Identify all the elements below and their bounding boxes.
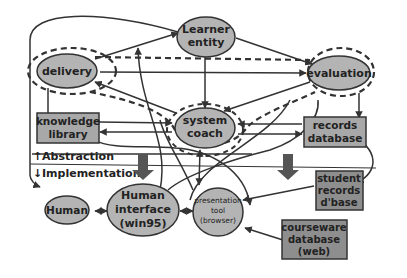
presentation-tool-label-3: (browser) (200, 216, 236, 225)
node-records-database[interactable]: records database (304, 117, 366, 147)
node-student-records[interactable]: student records d'base (316, 171, 363, 210)
node-human-interface[interactable]: Human interface (win95) (107, 184, 179, 236)
human-interface-label-1: Human (121, 189, 165, 202)
implementation-label: Implementation (42, 167, 141, 180)
human-label: Human (46, 204, 88, 216)
student-records-label-3: d'base (321, 197, 358, 208)
evaluation-label: evaluation (306, 67, 372, 80)
node-delivery[interactable]: delivery (37, 54, 97, 88)
learner-entity-label-1: Learner (182, 23, 231, 36)
node-courseware-database[interactable]: courseware database (web) (281, 220, 347, 259)
delivery-label: delivery (42, 65, 92, 78)
courseware-database-label-3: (web) (298, 246, 330, 257)
student-records-label-1: student (317, 173, 361, 184)
system-coach-label-2: coach (187, 127, 223, 140)
knowledge-library-label-2: library (48, 128, 87, 140)
node-knowledge-library[interactable]: knowledge library (36, 113, 100, 143)
human-interface-label-2: interface (115, 203, 171, 216)
learner-entity-label-2: entity (188, 36, 225, 49)
courseware-database-label-2: database (288, 234, 340, 245)
architecture-diagram: Learner entity delivery evaluation syste… (0, 0, 407, 278)
presentation-tool-label-1: presentation (194, 196, 242, 205)
records-database-label-1: records (313, 119, 358, 131)
node-learner-entity[interactable]: Learner entity (177, 17, 235, 57)
human-interface-label-3: (win95) (119, 217, 166, 230)
node-human[interactable]: Human (45, 196, 89, 224)
records-database-label-2: database (308, 132, 363, 144)
presentation-tool-label-2: tool (211, 206, 225, 215)
down-arrow-icon: ↓ (33, 167, 42, 180)
node-presentation-tool[interactable]: presentation tool (browser) (193, 188, 243, 236)
student-records-label-2: records (318, 185, 361, 196)
abstraction-label: Abstraction (42, 150, 114, 163)
node-evaluation[interactable]: evaluation (306, 56, 372, 90)
system-coach-label-1: system (183, 114, 227, 127)
knowledge-library-label-1: knowledge (36, 115, 100, 127)
courseware-database-label-1: courseware (281, 222, 347, 233)
up-arrow-icon: ↑ (33, 150, 42, 163)
